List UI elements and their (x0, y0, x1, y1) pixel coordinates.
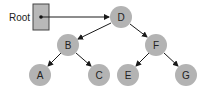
node-label: G (182, 70, 190, 81)
tree-node-a: A (29, 64, 51, 86)
tree-node-g: G (175, 64, 197, 86)
edge-f-g (164, 53, 178, 66)
node-label: A (37, 70, 44, 81)
tree-node-e: E (117, 64, 139, 86)
tree-node-d: D (110, 6, 132, 28)
node-label: E (125, 70, 132, 81)
edge-f-e (136, 53, 149, 66)
node-label: D (117, 12, 124, 23)
edge-b-a (48, 53, 61, 66)
node-label: B (65, 40, 72, 51)
edge-b-c (76, 53, 91, 66)
tree-node-b: B (57, 34, 79, 56)
tree-node-c: C (88, 64, 110, 86)
binary-tree-diagram: Root D B F A C E G (0, 0, 208, 93)
node-label: F (153, 40, 159, 51)
edge-d-b (78, 23, 111, 39)
tree-node-f: F (145, 34, 167, 56)
edge-d-f (130, 24, 147, 37)
node-label: C (95, 70, 102, 81)
root-label: Root (9, 12, 30, 23)
